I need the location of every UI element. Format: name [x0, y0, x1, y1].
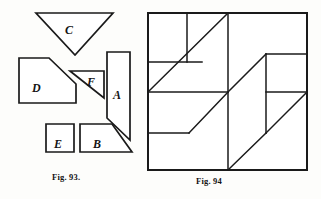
piece-label-d: D	[32, 82, 41, 94]
figure-page: C D F A E B Fig. 93. Fig. 94	[0, 0, 321, 199]
piece-label-e: E	[54, 138, 62, 150]
fig-94-assembled-square	[148, 13, 307, 170]
piece-label-b: B	[93, 138, 101, 150]
piece-c-triangle	[36, 13, 113, 55]
fig-94-caption: Fig. 94	[196, 176, 222, 186]
fig-93-caption: Fig. 93.	[52, 172, 80, 182]
figures-canvas	[0, 0, 321, 199]
piece-label-a: A	[113, 89, 121, 101]
piece-label-c: C	[65, 24, 73, 36]
piece-label-f: F	[87, 76, 95, 88]
piece-d-pentagon	[19, 58, 76, 103]
